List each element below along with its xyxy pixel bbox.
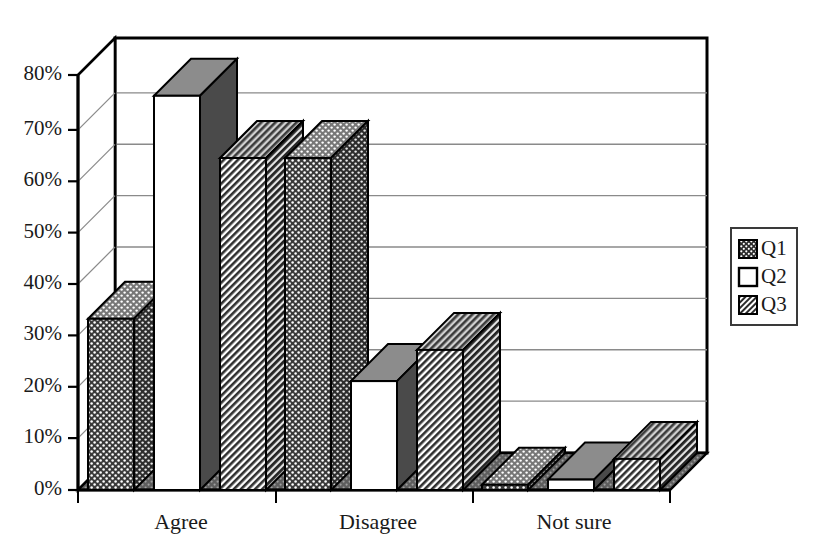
bar-chart-3d: 0% 10% 20% 30% 40% 50% 60% 70% 80% Agree… — [0, 0, 834, 550]
y-tick-label-30: 30% — [24, 321, 63, 345]
y-axis: 0% 10% 20% 30% 40% 50% 60% 70% 80% — [24, 61, 79, 500]
y-tick-label-50: 50% — [24, 219, 63, 243]
x-tick-label-disagree: Disagree — [339, 509, 417, 534]
legend-swatch-q3 — [739, 296, 757, 314]
x-tick-label-agree: Agree — [154, 509, 208, 534]
legend-item-q3[interactable]: Q3 — [739, 292, 787, 316]
y-tick-label-40: 40% — [24, 270, 63, 294]
legend-item-q1[interactable]: Q1 — [739, 236, 787, 260]
chart-container: 0% 10% 20% 30% 40% 50% 60% 70% 80% Agree… — [0, 0, 834, 550]
legend-label-q2: Q2 — [761, 264, 787, 288]
y-tick-label-60: 60% — [24, 167, 63, 191]
legend-swatch-q1 — [739, 240, 757, 258]
chart-legend: Q1 Q2 Q3 — [731, 228, 797, 325]
y-tick-label-20: 20% — [24, 373, 63, 397]
legend-label-q3: Q3 — [761, 292, 787, 316]
legend-label-q1: Q1 — [761, 236, 787, 260]
legend-swatch-q2 — [739, 268, 757, 286]
x-tick-label-notsure: Not sure — [536, 509, 611, 534]
x-axis: Agree Disagree Not sure — [78, 490, 670, 534]
y-tick-label-0: 0% — [34, 476, 62, 500]
y-tick-label-80: 80% — [24, 61, 63, 85]
bar-disagree-q3[interactable] — [417, 313, 500, 490]
y-tick-label-10: 10% — [24, 424, 63, 448]
legend-item-q2[interactable]: Q2 — [739, 264, 787, 288]
y-tick-label-70: 70% — [24, 116, 63, 140]
